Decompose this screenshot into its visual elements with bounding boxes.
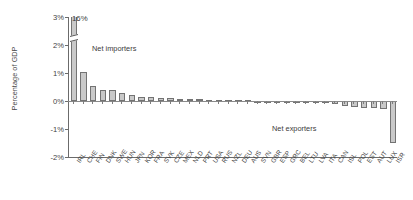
y-axis-title: Percentage of GDP: [10, 19, 19, 139]
y-axis-tick-mark: [65, 17, 68, 18]
x-axis-tick-mark: [189, 101, 190, 104]
x-axis-tick-mark: [160, 101, 161, 104]
bar-fin: [90, 86, 96, 101]
x-axis-tick-mark: [334, 101, 335, 104]
x-axis-tick-mark: [208, 101, 209, 104]
bar-che: [80, 72, 86, 101]
x-axis-tick-mark: [247, 101, 248, 104]
bar-est: [361, 101, 367, 108]
y-axis-tick-label: 3%: [0, 13, 64, 22]
x-axis-tick-mark: [266, 101, 267, 104]
y-axis-tick-mark: [65, 157, 68, 158]
net-exporters-annotation: Net exporters: [272, 124, 316, 133]
x-axis-tick-mark: [83, 101, 84, 104]
zero-baseline: [68, 101, 397, 102]
plot-area: [68, 17, 397, 157]
bar-isr: [390, 101, 396, 143]
x-axis-tick-mark: [112, 101, 113, 104]
x-axis-tick-mark: [170, 101, 171, 104]
bar-irl: [71, 17, 77, 101]
x-axis-tick-mark: [228, 101, 229, 104]
y-axis-tick-mark: [65, 45, 68, 46]
y-axis-tick-label: -2%: [0, 153, 64, 162]
bar-chart: Percentage of GDP 3%2%1%0%-1%-2% IRLCHEF…: [0, 0, 413, 200]
y-axis-tick-label: 2%: [0, 41, 64, 50]
peak-value-annotation: 16%: [72, 14, 88, 23]
x-axis-tick-mark: [344, 101, 345, 104]
y-axis-tick-mark: [65, 101, 68, 102]
x-axis-tick-mark: [102, 101, 103, 104]
x-axis-tick-mark: [218, 101, 219, 104]
x-axis-tick-mark: [315, 101, 316, 104]
bar-aut: [371, 101, 377, 108]
x-axis-tick-mark: [257, 101, 258, 104]
y-axis-tick-label: 1%: [0, 69, 64, 78]
y-axis-tick-mark: [65, 73, 68, 74]
bar-hun: [119, 93, 125, 101]
x-axis-tick-mark: [92, 101, 93, 104]
x-axis-tick-mark: [150, 101, 151, 104]
y-axis-tick-label: 0%: [0, 97, 64, 106]
x-axis-tick-mark: [353, 101, 354, 104]
x-axis-tick-mark: [141, 101, 142, 104]
x-axis-tick-mark: [237, 101, 238, 104]
x-axis-tick-mark: [73, 101, 74, 104]
bar-swe: [109, 90, 115, 101]
x-axis-tick-mark: [199, 101, 200, 104]
x-axis-tick-mark: [392, 101, 393, 104]
x-axis-tick-mark: [121, 101, 122, 104]
x-axis-tick-mark: [382, 101, 383, 104]
x-axis-tick-mark: [276, 101, 277, 104]
x-axis-tick-mark: [286, 101, 287, 104]
x-axis-tick-mark: [179, 101, 180, 104]
y-axis-tick-mark: [65, 129, 68, 130]
bars-layer: [69, 17, 397, 157]
x-axis-tick-mark: [363, 101, 364, 104]
x-axis-tick-mark: [131, 101, 132, 104]
x-axis-tick-mark: [324, 101, 325, 104]
bar-dnk: [100, 90, 106, 101]
x-axis-tick-mark: [295, 101, 296, 104]
y-axis-tick-label: -1%: [0, 125, 64, 134]
x-axis-tick-mark: [373, 101, 374, 104]
net-importers-annotation: Net importers: [92, 44, 136, 53]
x-axis-tick-mark: [305, 101, 306, 104]
